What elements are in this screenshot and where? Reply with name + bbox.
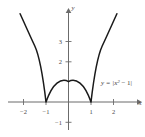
curve-equation-label: y = |x2 − 1| (100, 79, 132, 87)
function-graph-figure: −2 −1 1 2 3 2 −1 x y y = |x2 − 1| (0, 0, 145, 137)
x-tick-label-neg1: −1 (43, 108, 50, 115)
y-tick-label-neg1: −1 (55, 119, 62, 126)
curve-label-suffix: − 1| (120, 79, 132, 87)
x-tick-label-pos2: 2 (112, 108, 115, 115)
x-tick-label-neg2: −2 (20, 108, 27, 115)
y-tick-label-3: 3 (59, 38, 62, 45)
x-axis-label: x (137, 99, 142, 107)
y-axis-label: y (70, 4, 75, 12)
curve-label-prefix: y = |x (100, 79, 118, 87)
x-tick-label-pos1: 1 (89, 108, 92, 115)
plot-area: −2 −1 1 2 3 2 −1 x y y = |x2 − 1| (0, 0, 145, 137)
y-tick-label-2: 2 (59, 58, 62, 65)
